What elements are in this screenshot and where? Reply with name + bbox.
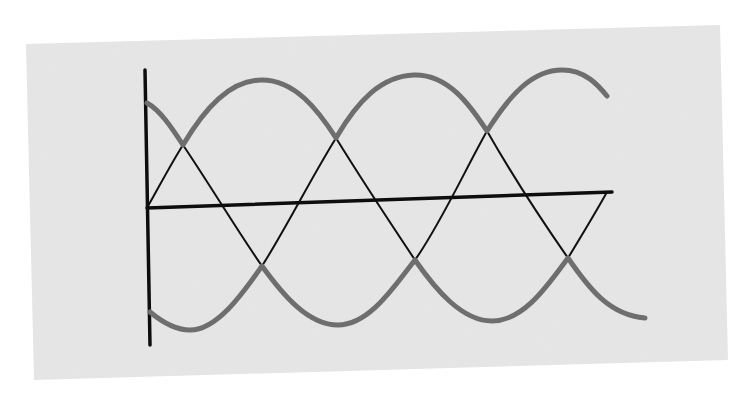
diagram-canvas [0,0,756,394]
waveform-diagram [0,0,756,394]
